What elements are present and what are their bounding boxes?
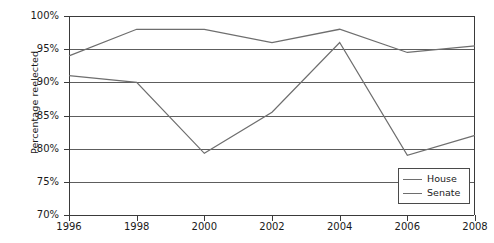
legend-swatch-house [403,179,422,180]
x-tick-label: 2000 [192,222,217,232]
x-tick-mark [340,215,341,221]
legend-label-senate: Senate [427,188,460,198]
x-tick-mark [407,215,408,221]
legend-item-house[interactable]: House [403,172,465,186]
x-tick-mark [137,215,138,221]
x-tick-mark [475,215,476,221]
legend-item-senate[interactable]: Senate [403,186,465,200]
x-axis-labels: 1996199820002002200420062008 [0,0,494,243]
legend-label-house: House [427,174,457,184]
x-tick-mark [272,215,273,221]
x-tick-label: 2002 [259,222,284,232]
x-tick-mark [69,215,70,221]
chart-container: Percentage reelected 70%75%80%85%90%95%1… [0,0,494,243]
x-tick-label: 2006 [395,222,420,232]
x-tick-label: 1996 [56,222,81,232]
x-tick-label: 2008 [462,222,487,232]
x-tick-mark [204,215,205,221]
chart-legend: House Senate [398,168,470,204]
x-tick-label: 1998 [124,222,149,232]
legend-swatch-senate [403,193,422,194]
x-tick-label: 2004 [327,222,352,232]
